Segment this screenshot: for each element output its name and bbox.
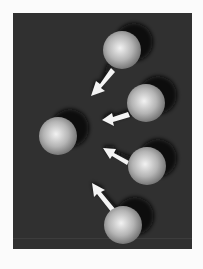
sphere-right-upper	[127, 84, 165, 122]
arrow-up-left-icon	[92, 183, 116, 213]
sphere-bottom	[104, 206, 142, 244]
arrow-down-left-icon	[91, 68, 115, 96]
sphere-right-lower	[128, 147, 166, 185]
sphere-center-target	[39, 117, 77, 155]
arrows	[91, 68, 130, 213]
sphere-top	[103, 31, 141, 69]
spheres-illustration	[0, 0, 203, 269]
